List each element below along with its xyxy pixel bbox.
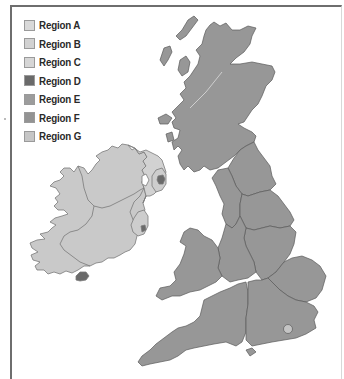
legend-item-region-c: Region C [24, 53, 89, 72]
legend-label: Region D [39, 75, 81, 87]
legend-swatch-region-d [24, 75, 35, 86]
legend-swatch-region-g [24, 131, 35, 142]
legend-item-region-a: Region A [24, 16, 89, 35]
legend-swatch-region-e [24, 94, 35, 105]
legend-label: Region B [39, 38, 81, 50]
legend-swatch-region-c [24, 57, 35, 68]
cork-urban [76, 272, 89, 281]
london [284, 325, 293, 334]
map-legend: Region A Region B Region C Region D Regi… [24, 16, 89, 146]
legend-label: Region E [39, 93, 80, 105]
legend-swatch-region-b [24, 38, 35, 49]
legend-label: Region F [39, 112, 79, 124]
legend-item-region-b: Region B [24, 35, 89, 54]
legend-item-region-d: Region D [24, 72, 89, 91]
great-britain [138, 16, 326, 366]
islay [166, 132, 174, 142]
isle-of-wight [246, 348, 256, 356]
scotland [172, 22, 275, 172]
belfast-urban [157, 175, 165, 184]
mull [158, 114, 172, 124]
legend-label: Region C [39, 56, 81, 68]
legend-item-region-e: Region E [24, 90, 89, 109]
legend-swatch-region-f [24, 112, 35, 123]
ireland [30, 144, 166, 281]
legend-swatch-region-a [24, 20, 35, 31]
legend-label: Region A [39, 19, 80, 31]
legend-label: Region G [39, 130, 81, 142]
yorkshire [240, 190, 294, 230]
republic-of-ireland [30, 144, 147, 274]
legend-item-region-g: Region G [24, 127, 89, 146]
wales [156, 228, 222, 300]
south-west-england [138, 282, 248, 366]
outer-hebrides [176, 16, 198, 40]
legend-item-region-f: Region F [24, 109, 89, 128]
hebrides-island [178, 56, 190, 76]
isle-of-skye [160, 46, 172, 66]
